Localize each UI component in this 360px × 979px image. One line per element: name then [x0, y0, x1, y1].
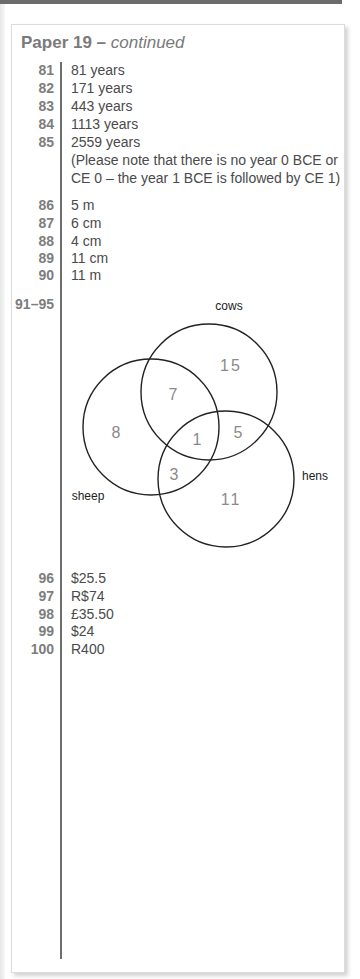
answer-text: 81 years [71, 61, 125, 79]
vertical-divider [60, 62, 62, 959]
sheep-label: sheep [72, 489, 105, 503]
question-number: 84 [12, 115, 54, 133]
answer-text: 2559 years [71, 133, 140, 151]
answer-text: $24 [71, 622, 94, 640]
note-line-2: CE 0 – the year 1 BCE is followed by CE … [71, 169, 340, 187]
answer-text: 11 cm [71, 249, 108, 267]
question-number: 85 [12, 133, 54, 151]
answer-text: R$74 [71, 587, 104, 605]
cows-only-value: 15 [220, 357, 242, 374]
answer-text: R400 [71, 640, 104, 658]
hens-label: hens [302, 469, 328, 483]
question-number: 90 [12, 266, 54, 284]
cows-hens-value: 5 [234, 424, 243, 441]
sheep-only-value: 8 [112, 424, 121, 441]
question-number: 88 [12, 232, 54, 250]
cows-sheep-value: 7 [169, 386, 178, 403]
note-line-1: (Please note that there is no year 0 BCE… [71, 151, 338, 169]
page-edge [0, 0, 5, 979]
question-number: 91–95 [8, 295, 54, 313]
top-header-bar [0, 0, 342, 4]
answer-card: Paper 19 – continued 81 81 years 82 171 … [11, 24, 345, 973]
answer-text: 11 m [71, 266, 101, 284]
question-number: 100 [12, 640, 54, 658]
answer-text: 4 cm [71, 232, 101, 250]
hens-only-value: 11 [221, 491, 242, 508]
question-number: 89 [12, 249, 54, 267]
answer-text: 6 cm [71, 214, 101, 232]
title-main: Paper 19 – [21, 33, 111, 52]
answer-text: 1113 years [71, 115, 138, 133]
question-number: 98 [12, 605, 54, 623]
page-title: Paper 19 – continued [21, 33, 185, 53]
answer-text: 5 m [71, 196, 94, 214]
question-number: 97 [12, 587, 54, 605]
answer-text: $25.5 [71, 569, 106, 587]
question-number: 96 [12, 569, 54, 587]
hens-circle [158, 411, 294, 547]
title-continued: continued [111, 33, 185, 52]
sheep-hens-value: 3 [170, 466, 179, 483]
question-number: 82 [12, 79, 54, 97]
answer-text: 443 years [71, 97, 132, 115]
sheep-circle [83, 359, 219, 495]
question-number: 87 [12, 214, 54, 232]
cows-circle [141, 324, 277, 460]
question-number: 86 [12, 196, 54, 214]
question-number: 81 [12, 61, 54, 79]
question-number: 99 [12, 622, 54, 640]
answer-text: £35.50 [71, 605, 114, 623]
cows-label: cows [215, 299, 242, 313]
question-number: 83 [12, 97, 54, 115]
all-three-value: 1 [193, 431, 202, 448]
answer-text: 171 years [71, 79, 132, 97]
